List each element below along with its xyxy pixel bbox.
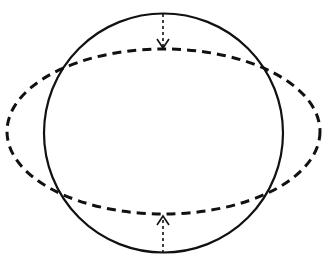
diagram-canvas xyxy=(0,0,332,270)
bottom-compression-arrow xyxy=(157,216,169,253)
dashed-ellipse xyxy=(7,49,320,214)
circle-ellipse-deformation-diagram xyxy=(0,0,332,270)
top-compression-arrow xyxy=(157,14,169,48)
